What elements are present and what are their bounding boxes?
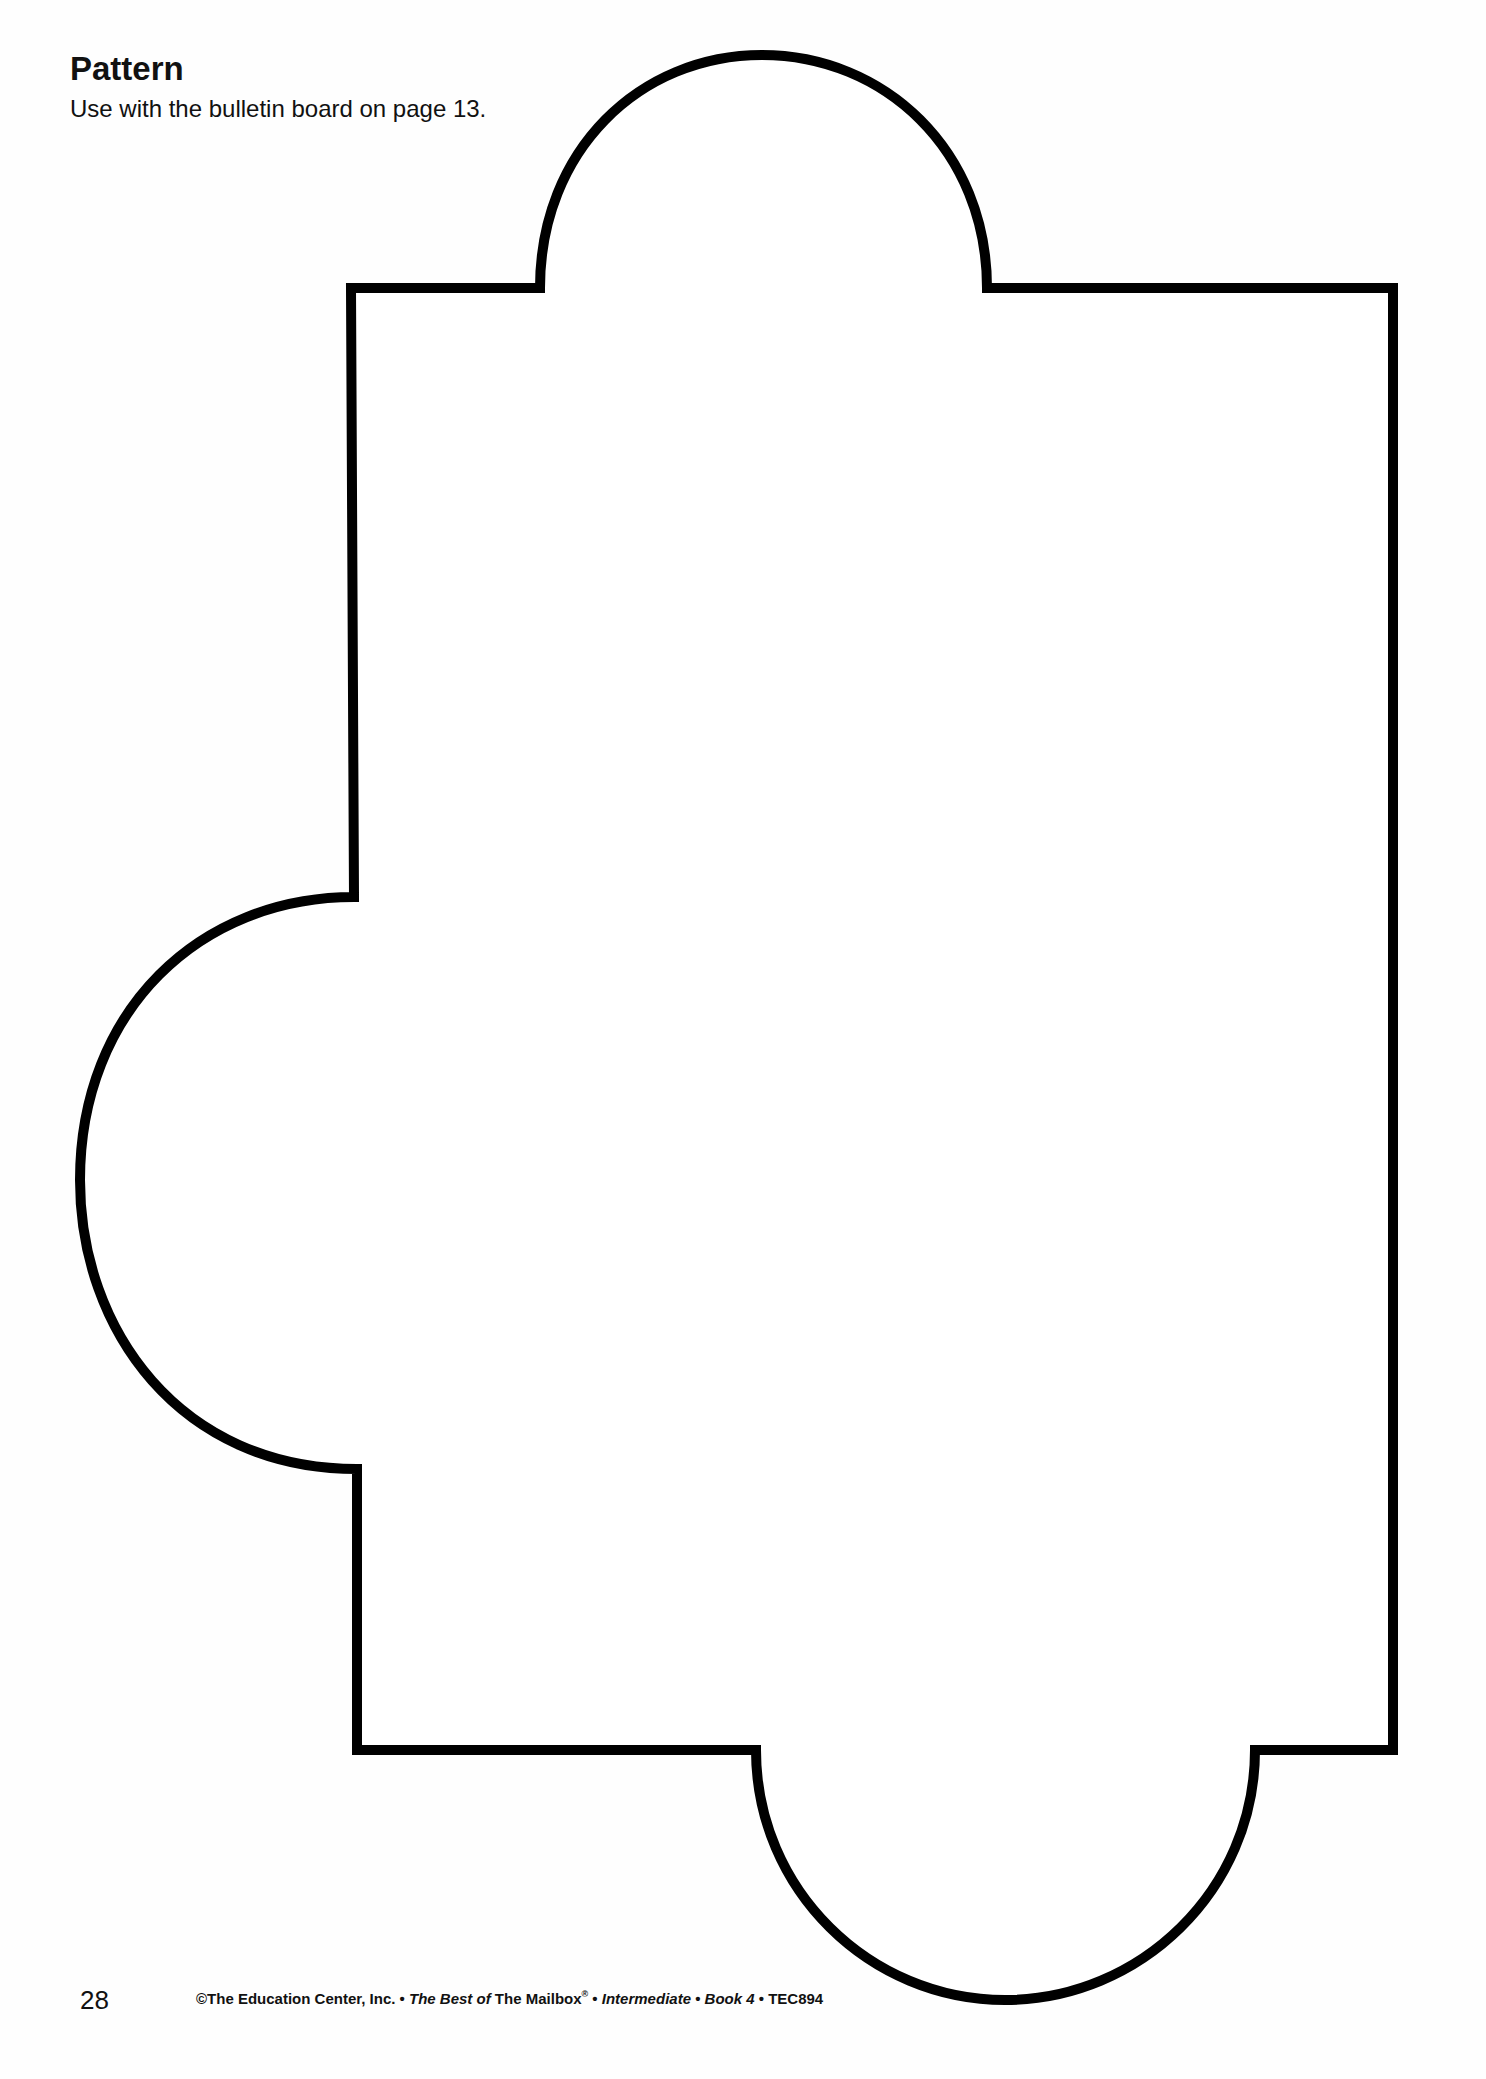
registered-mark: ®	[582, 1989, 589, 1999]
credit-best-of: The Best of	[409, 1990, 491, 2007]
pattern-shape-path	[80, 55, 1393, 2000]
credit-copyright: ©The Education Center, Inc.	[196, 1990, 395, 2007]
credit-mailbox: The Mailbox	[491, 1990, 582, 2007]
separator: •	[588, 1990, 602, 2007]
separator: •	[691, 1990, 705, 2007]
copyright-credit: ©The Education Center, Inc. • The Best o…	[196, 1991, 823, 2006]
credit-level: Intermediate	[602, 1990, 691, 2007]
separator: •	[395, 1990, 409, 2007]
separator: •	[755, 1990, 769, 2007]
page-number: 28	[80, 1987, 109, 2013]
credit-book: Book 4	[705, 1990, 755, 2007]
pattern-outline	[0, 0, 1486, 2079]
credit-code: TEC894	[768, 1990, 823, 2007]
